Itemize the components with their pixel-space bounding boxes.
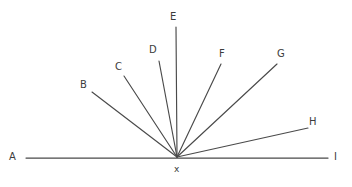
point-label-I: I bbox=[334, 152, 337, 162]
diagram-canvas bbox=[0, 0, 352, 187]
ray-xB bbox=[92, 92, 177, 157]
ray-group bbox=[92, 27, 308, 157]
geometry-diagram: A B C D E F G H I x bbox=[0, 0, 352, 187]
point-label-G: G bbox=[277, 49, 285, 59]
ray-xF bbox=[177, 64, 221, 157]
point-label-H: H bbox=[309, 117, 317, 127]
vertex-label-x: x bbox=[174, 165, 179, 174]
point-label-F: F bbox=[219, 49, 225, 59]
point-label-A: A bbox=[9, 152, 16, 162]
point-label-E: E bbox=[170, 12, 176, 22]
ray-xE bbox=[176, 27, 177, 157]
ray-xG bbox=[177, 64, 277, 157]
point-label-C: C bbox=[115, 62, 122, 72]
point-label-D: D bbox=[149, 45, 157, 55]
point-label-B: B bbox=[80, 80, 87, 90]
ray-xH bbox=[177, 128, 308, 157]
